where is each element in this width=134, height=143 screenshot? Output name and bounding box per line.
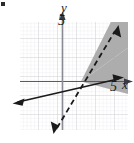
corner-artifact-mark (1, 2, 5, 6)
solid-line-arrowhead-left (13, 99, 25, 106)
x-axis-label: x (122, 78, 128, 91)
coordinate-graph-figure: y 5 5 x (0, 0, 134, 143)
graph-canvas (0, 0, 134, 143)
y-axis-tick-label-5: 5 (58, 14, 65, 28)
x-axis-tick-label-5: 5 (110, 80, 117, 94)
